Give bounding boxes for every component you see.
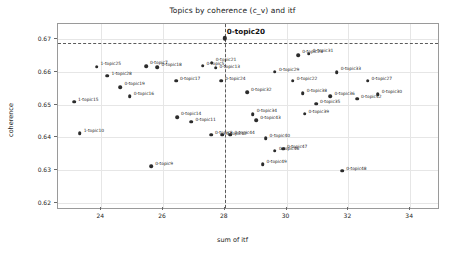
data-point-label: 0-topic44 xyxy=(234,129,254,134)
x-axis-tick xyxy=(162,207,163,210)
highlighted-point-label: 0-topic20 xyxy=(227,27,265,36)
data-point[interactable] xyxy=(150,164,154,168)
data-point[interactable] xyxy=(264,136,268,140)
x-axis-tick xyxy=(409,207,410,210)
data-point[interactable] xyxy=(128,94,132,98)
data-point-label: 0-topic17 xyxy=(180,75,200,80)
y-axis-tick xyxy=(54,136,57,137)
data-point-label: 0-topic47 xyxy=(287,143,307,148)
y-axis-tick-label: 0.64 xyxy=(25,133,51,140)
grid-line-vertical xyxy=(287,24,288,208)
data-point[interactable] xyxy=(190,120,194,124)
y-axis-tick xyxy=(54,71,57,72)
x-axis-tick xyxy=(286,207,287,210)
x-axis-tick-label: 24 xyxy=(96,212,104,219)
data-point[interactable] xyxy=(201,64,205,68)
data-point-label: 0-topic49 xyxy=(267,159,287,164)
data-point[interactable] xyxy=(291,79,295,83)
data-point[interactable] xyxy=(307,52,311,56)
scatter-chart-figure: Topics by coherence (c_v) and itf 1-topi… xyxy=(0,0,465,260)
data-point[interactable] xyxy=(335,71,339,75)
x-axis-tick-label: 28 xyxy=(220,212,228,219)
grid-line-vertical xyxy=(101,24,102,208)
data-point[interactable] xyxy=(273,70,277,74)
data-point-label: 0-topic24 xyxy=(225,75,245,80)
data-point-label: 0-topic13 xyxy=(220,63,240,68)
data-point[interactable] xyxy=(214,66,218,70)
x-axis-tick-label: 32 xyxy=(344,212,352,219)
data-point[interactable] xyxy=(95,65,99,69)
y-axis-tick-label: 0.63 xyxy=(25,166,51,173)
data-point[interactable] xyxy=(245,90,249,94)
data-point[interactable] xyxy=(72,100,76,104)
data-point[interactable] xyxy=(210,61,214,65)
data-point[interactable] xyxy=(219,79,223,83)
data-point-label: 0-topic29 xyxy=(279,66,299,71)
data-point-label: 0-topic32 xyxy=(251,87,271,92)
data-point-label: 0-topic21 xyxy=(216,56,236,61)
data-point[interactable] xyxy=(297,53,301,57)
data-point-label: 1-topic25 xyxy=(101,60,121,65)
data-point[interactable] xyxy=(281,147,285,151)
y-axis-tick-label: 0.67 xyxy=(25,34,51,41)
data-point-label: 0-topic31 xyxy=(313,47,333,52)
data-point[interactable] xyxy=(329,94,333,98)
data-point-label: 0-topic33 xyxy=(341,66,361,71)
data-point[interactable] xyxy=(119,86,123,90)
data-point[interactable] xyxy=(273,149,277,153)
reference-line-vertical xyxy=(225,24,226,208)
x-axis-tick xyxy=(100,207,101,210)
data-point-label: 0-topic18 xyxy=(161,62,181,67)
data-point[interactable] xyxy=(221,133,225,137)
data-point[interactable] xyxy=(175,115,179,119)
y-axis-tick xyxy=(54,104,57,105)
data-point[interactable] xyxy=(251,113,255,117)
data-point-label: 0-topic40 xyxy=(270,133,290,138)
data-point-label: 0-topic38 xyxy=(307,88,327,93)
grid-line-horizontal xyxy=(58,39,438,40)
data-point[interactable] xyxy=(255,118,259,122)
data-point-label: 0-topic9 xyxy=(155,160,173,165)
data-point[interactable] xyxy=(229,133,233,137)
data-point[interactable] xyxy=(340,169,344,173)
x-axis-tick xyxy=(224,207,225,210)
reference-line-horizontal xyxy=(58,43,438,44)
data-point[interactable] xyxy=(314,102,318,106)
data-point[interactable] xyxy=(376,92,380,96)
data-point-label: 0-topic14 xyxy=(181,110,201,115)
grid-line-vertical xyxy=(163,24,164,208)
y-axis-tick-label: 0.66 xyxy=(25,67,51,74)
data-point-label: 0-topic34 xyxy=(257,108,277,113)
data-point[interactable] xyxy=(261,163,265,167)
grid-line-horizontal xyxy=(58,105,438,106)
x-axis-label: sum of itf xyxy=(0,236,465,244)
chart-title: Topics by coherence (c_v) and itf xyxy=(0,6,465,15)
data-point-label: 0-topic43 xyxy=(260,115,280,120)
data-point-label: 0-topic30 xyxy=(382,88,402,93)
data-point-label: 0-topic22 xyxy=(297,75,317,80)
data-point[interactable] xyxy=(78,132,82,136)
y-axis-tick xyxy=(54,202,57,203)
data-point-label: 0-topic48 xyxy=(346,165,366,170)
data-point[interactable] xyxy=(209,133,213,137)
data-point[interactable] xyxy=(106,74,110,78)
grid-line-horizontal xyxy=(58,203,438,204)
data-point[interactable] xyxy=(355,97,359,101)
y-axis-tick xyxy=(54,169,57,170)
y-axis-tick-label: 0.65 xyxy=(25,100,51,107)
data-point[interactable] xyxy=(301,91,305,95)
data-point[interactable] xyxy=(156,66,160,70)
x-axis-tick-label: 26 xyxy=(158,212,166,219)
grid-line-horizontal xyxy=(58,137,438,138)
data-point-label: 1-topic28 xyxy=(111,70,131,75)
data-point-label: 0-topic27 xyxy=(372,75,392,80)
x-axis-tick-label: 34 xyxy=(405,212,413,219)
data-point-label: 0-topic19 xyxy=(124,81,144,86)
data-point[interactable] xyxy=(303,112,307,116)
data-point[interactable] xyxy=(366,79,370,83)
y-axis-label: coherence xyxy=(7,103,15,137)
y-axis-tick xyxy=(54,38,57,39)
data-point[interactable] xyxy=(144,64,148,68)
data-point[interactable] xyxy=(174,79,178,83)
data-point-label: 1-topic15 xyxy=(78,96,98,101)
